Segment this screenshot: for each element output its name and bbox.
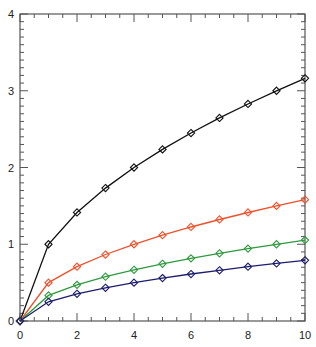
- x-tick-label: 4: [131, 329, 137, 341]
- y-tick-label: 0: [8, 315, 14, 327]
- x-tick-label: 8: [245, 329, 251, 341]
- line-chart: 024681001234: [0, 0, 316, 347]
- y-tick-label: 1: [8, 238, 14, 250]
- x-tick-label: 6: [188, 329, 194, 341]
- y-tick-label: 3: [8, 85, 14, 97]
- x-tick-label: 10: [299, 329, 311, 341]
- y-tick-label: 2: [8, 162, 14, 174]
- x-tick-label: 2: [74, 329, 80, 341]
- tick-labels: 024681001234: [8, 8, 311, 341]
- series-green: [16, 237, 308, 325]
- y-tick-label: 4: [8, 8, 14, 20]
- x-tick-label: 0: [17, 329, 23, 341]
- plot-series: [16, 75, 308, 325]
- series-black: [16, 75, 308, 325]
